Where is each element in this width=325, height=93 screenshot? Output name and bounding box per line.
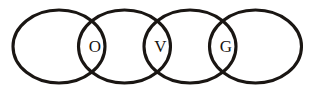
diagram-canvas: O V G — [0, 0, 325, 93]
intersection-label-v: V — [154, 37, 167, 56]
intersection-label-g: G — [220, 37, 232, 56]
intersection-label-o: O — [89, 37, 101, 56]
overlapping-circles-diagram: O V G — [0, 0, 325, 93]
